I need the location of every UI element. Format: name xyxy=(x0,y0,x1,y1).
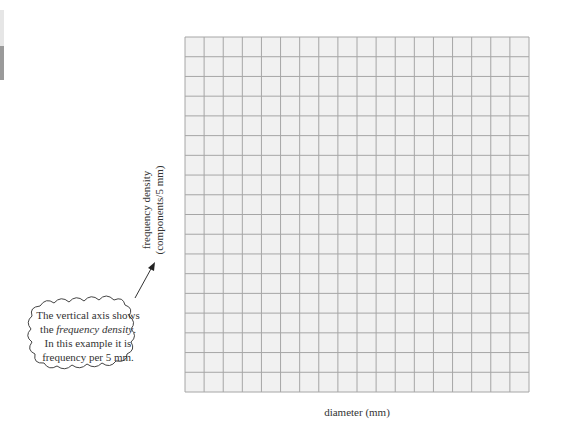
histogram-chart: diameter (mm) frequency density (compone… xyxy=(0,0,571,432)
callout-arrow xyxy=(135,262,155,298)
callout-line-3: In this example it is xyxy=(45,337,132,349)
callout-line-4: frequency per 5 mm. xyxy=(42,351,134,363)
x-axis-title: diameter (mm) xyxy=(324,406,390,419)
callout-cloud: The vertical axis shows the frequency de… xyxy=(28,296,140,369)
svg-text:(components/5 mm): (components/5 mm) xyxy=(153,165,166,254)
callout-line-2: the frequency density. xyxy=(40,323,136,335)
callout-line-1: The vertical axis shows xyxy=(36,309,140,321)
grid xyxy=(185,37,529,392)
y-axis-title: frequency density (components/5 mm) xyxy=(140,165,166,254)
svg-text:frequency density: frequency density xyxy=(140,170,152,249)
